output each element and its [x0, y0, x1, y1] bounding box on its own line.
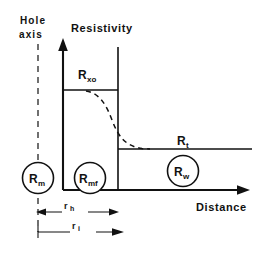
hole-axis-title: Hole axis: [19, 15, 46, 40]
rh-symbol: r: [64, 201, 68, 211]
hole-axis-title-line2: axis: [19, 29, 43, 40]
rxo-symbol: R: [78, 68, 87, 82]
rt-subscript: t: [186, 141, 189, 150]
x-axis-arrowhead: [237, 185, 250, 195]
rm-subscript: m: [38, 179, 45, 188]
rh-subscript: h: [70, 205, 74, 212]
rw-symbol: R: [174, 165, 183, 179]
rt-symbol: R: [177, 134, 186, 148]
rmf-subscript: mf: [88, 179, 98, 188]
y-axis-group: [58, 38, 68, 190]
rw-circle: [168, 156, 199, 187]
rm-circled-label: R m: [23, 163, 54, 194]
rh-dimension-group: r h: [36, 201, 119, 215]
ri-dimension-group: r i: [38, 221, 124, 238]
diagram-canvas: R xo R t R m R mf R w: [0, 0, 266, 254]
hole-axis-title-line1: Hole: [20, 15, 46, 26]
rt-label: R t: [177, 134, 189, 150]
ri-subscript: i: [78, 225, 80, 232]
rw-circled-label: R w: [168, 156, 199, 187]
rw-subscript: w: [182, 172, 190, 181]
ri-right-arrowhead: [112, 228, 124, 236]
rm-symbol: R: [29, 172, 38, 186]
x-axis-title: Distance: [196, 201, 247, 213]
resistivity-distance-figure: R xo R t R m R mf R w: [0, 0, 266, 254]
rxo-subscript: xo: [87, 75, 96, 84]
rmf-circled-label: R mf: [75, 163, 106, 194]
ri-symbol: r: [72, 221, 76, 231]
y-axis-arrowhead: [58, 38, 68, 51]
rm-circle: [23, 163, 54, 194]
rh-right-arrowhead: [109, 209, 119, 216]
rxo-label: R xo: [78, 68, 96, 84]
rmf-symbol: R: [79, 172, 88, 186]
y-axis-title: Resistivity: [71, 22, 133, 34]
